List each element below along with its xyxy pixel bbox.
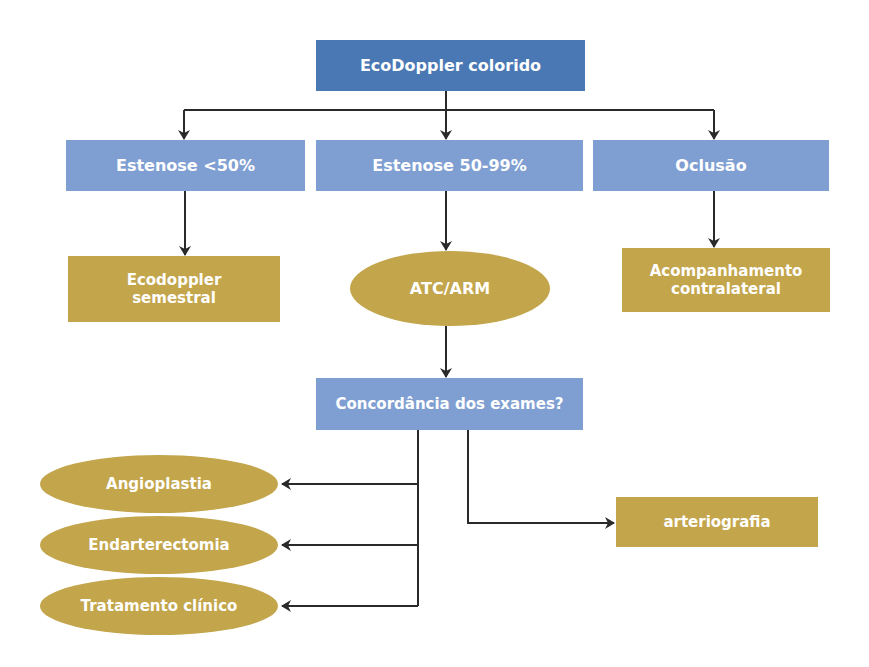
node-label: Ecodoppler semestral [98,271,250,307]
node-ecodoppler-colorido: EcoDoppler colorido [316,40,585,91]
node-tratamento-clinico: Tratamento clínico [40,577,278,635]
node-label: Estenose 50-99% [372,156,526,175]
node-concordancia-dos-exames: Concordância dos exames? [316,378,583,430]
node-arteriografia: arteriografia [616,497,818,547]
node-label: Endarterectomia [88,536,229,554]
node-label: ATC/ARM [410,279,490,298]
node-label: arteriografia [663,513,770,531]
node-label: Oclusão [675,156,746,175]
node-label: Acompanhamento contralateral [636,262,816,298]
node-endarterectomia: Endarterectomia [40,516,278,574]
node-oclusao: Oclusão [593,140,829,191]
node-atc-arm: ATC/ARM [350,251,550,326]
node-label: Angioplastia [106,475,212,493]
node-label: EcoDoppler colorido [360,56,541,75]
node-angioplastia: Angioplastia [40,455,278,513]
node-label: Estenose <50% [116,156,255,175]
node-estenose-50-99: Estenose 50-99% [316,140,583,191]
node-label: Tratamento clínico [81,597,238,615]
node-ecodoppler-semestral: Ecodoppler semestral [68,256,280,322]
node-label: Concordância dos exames? [335,395,563,413]
node-acompanhamento-contralateral: Acompanhamento contralateral [622,248,830,312]
node-estenose-lt50: Estenose <50% [66,140,305,191]
